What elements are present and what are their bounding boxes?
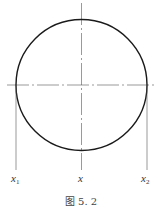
label-x: x (77, 172, 83, 184)
figure-5-2: x1 x x2 图 5. 2 (0, 0, 162, 211)
label-x1: x1 (10, 172, 20, 186)
label-x2: x2 (140, 172, 150, 186)
figure-caption: 图 5. 2 (65, 196, 97, 207)
